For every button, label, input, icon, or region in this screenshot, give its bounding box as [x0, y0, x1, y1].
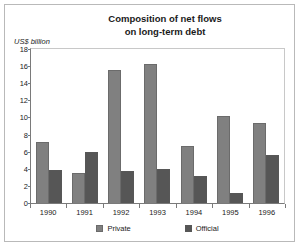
- y-tick-label: 8: [24, 130, 28, 139]
- bar-private-1990: [36, 142, 49, 203]
- legend-item-official[interactable]: Official: [185, 224, 219, 233]
- x-tick-mark: [285, 204, 286, 208]
- bar-official-1990: [49, 170, 62, 203]
- x-tick-label-1993: 1993: [139, 208, 175, 217]
- y-tick-label: 2: [24, 181, 28, 190]
- y-tick-mark: [28, 186, 31, 187]
- bar-private-1992: [108, 70, 121, 203]
- bar-group: [176, 49, 212, 203]
- bar-official-1996: [266, 155, 279, 203]
- legend-label-private: Private: [107, 224, 130, 233]
- bar-private-1994: [181, 146, 194, 203]
- chart-title: Composition of net flows on long-term de…: [40, 12, 290, 38]
- x-tick-label-1992: 1992: [103, 208, 139, 217]
- bar-official-1994: [194, 176, 207, 203]
- y-tick-label: 14: [20, 79, 28, 88]
- bar-group: [67, 49, 103, 203]
- y-tick-mark: [28, 169, 31, 170]
- x-tick-label-1991: 1991: [66, 208, 102, 217]
- bar-private-1991: [72, 173, 85, 203]
- bar-official-1992: [121, 171, 134, 204]
- y-tick-mark: [28, 100, 31, 101]
- legend-swatch-official-icon: [185, 225, 192, 232]
- legend-label-official: Official: [196, 224, 219, 233]
- y-tick-mark: [28, 83, 31, 84]
- y-tick-label: 0: [24, 199, 28, 208]
- y-tick-mark: [28, 49, 31, 50]
- y-tick-mark: [28, 117, 31, 118]
- y-tick-label: 10: [20, 113, 28, 122]
- y-tick-mark: [28, 152, 31, 153]
- x-tick-label-1990: 1990: [30, 208, 66, 217]
- bar-private-1993: [144, 64, 157, 203]
- x-tick-label-1995: 1995: [212, 208, 248, 217]
- bar-group: [212, 49, 248, 203]
- x-axis-labels: 1990199119921993199419951996: [30, 208, 285, 217]
- y-tick-label: 6: [24, 147, 28, 156]
- bar-official-1991: [85, 152, 98, 203]
- y-tick-label: 12: [20, 96, 28, 105]
- bar-group: [103, 49, 139, 203]
- chart-title-line-2: on long-term debt: [40, 25, 290, 38]
- chart-figure: Composition of net flows on long-term de…: [0, 0, 299, 246]
- y-tick-label: 4: [24, 164, 28, 173]
- bar-official-1995: [230, 193, 243, 203]
- bar-groups: [31, 49, 284, 203]
- chart-legend: PrivateOfficial: [30, 224, 285, 233]
- y-tick-mark: [28, 135, 31, 136]
- legend-item-private[interactable]: Private: [96, 224, 130, 233]
- x-tick-label-1994: 1994: [176, 208, 212, 217]
- y-tick-mark: [28, 66, 31, 67]
- y-tick-label: 16: [20, 62, 28, 71]
- legend-swatch-private-icon: [96, 225, 103, 232]
- chart-title-line-1: Composition of net flows: [40, 12, 290, 25]
- x-tick-label-1996: 1996: [249, 208, 285, 217]
- plot-area: 024681012141618: [30, 48, 285, 204]
- bar-group: [248, 49, 284, 203]
- bar-private-1995: [217, 116, 230, 203]
- bar-group: [31, 49, 67, 203]
- bar-private-1996: [253, 123, 266, 203]
- y-tick-label: 18: [20, 45, 28, 54]
- bar-group: [139, 49, 175, 203]
- bar-official-1993: [157, 169, 170, 203]
